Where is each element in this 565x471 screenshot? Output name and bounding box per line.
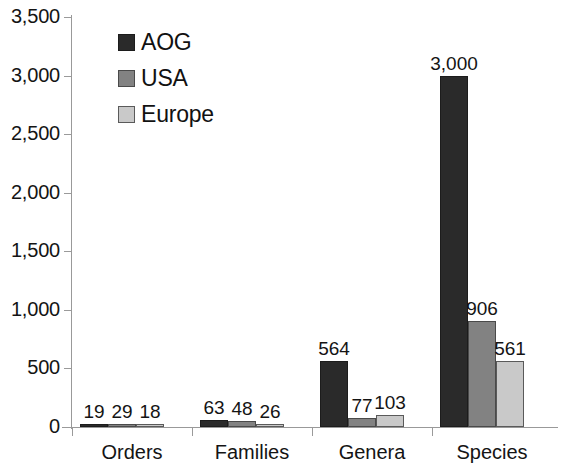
bar-value-label: 906 <box>456 299 508 319</box>
y-axis-label: 500 <box>2 357 60 377</box>
legend-item-europe: Europe <box>118 96 214 132</box>
legend-swatch-icon <box>118 70 135 87</box>
legend-item-label: Europe <box>141 102 214 126</box>
bar-species-aog <box>440 76 468 427</box>
bar-genera-aog <box>320 361 348 427</box>
y-axis-label: 0 <box>2 416 60 436</box>
legend-item-label: AOG <box>141 30 192 54</box>
bar-orders-europe <box>136 424 164 427</box>
x-axis-tick <box>192 427 193 436</box>
legend-item-label: USA <box>141 66 188 90</box>
legend-item-aog: AOG <box>118 24 214 60</box>
x-axis-category-label: Families <box>192 441 312 463</box>
legend-item-usa: USA <box>118 60 214 96</box>
bar-species-usa <box>468 321 496 427</box>
y-axis-tick <box>64 310 72 311</box>
bar-genera-usa <box>348 418 376 427</box>
x-axis-tick <box>72 427 73 436</box>
bar-value-label: 564 <box>308 339 360 359</box>
bar-families-usa <box>228 421 256 427</box>
x-axis-tick <box>312 427 313 436</box>
y-axis-label: 1,500 <box>2 240 60 260</box>
bar-value-label: 103 <box>364 393 416 413</box>
bar-chart: 05001,0001,5002,0002,5003,0003,500 19291… <box>0 0 565 471</box>
bar-genera-europe <box>376 415 404 427</box>
y-axis-label: 3,000 <box>2 65 60 85</box>
y-axis-tick <box>64 17 72 18</box>
bar-value-label: 3,000 <box>428 54 480 74</box>
y-axis-tick <box>64 251 72 252</box>
bar-families-aog <box>200 420 228 427</box>
bar-orders-aog <box>80 424 108 427</box>
bar-species-europe <box>496 361 524 427</box>
legend-swatch-icon <box>118 34 135 51</box>
y-axis-tick <box>64 76 72 77</box>
x-axis-category-label: Genera <box>312 441 432 463</box>
x-axis-category-label: Species <box>432 441 552 463</box>
chart-legend: AOGUSAEurope <box>118 24 214 132</box>
bar-orders-usa <box>108 424 136 427</box>
y-axis-label: 2,500 <box>2 123 60 143</box>
y-axis-label: 3,500 <box>2 6 60 26</box>
x-axis-tick <box>432 427 433 436</box>
y-axis-label: 2,000 <box>2 182 60 202</box>
y-axis-label: 1,000 <box>2 299 60 319</box>
x-axis-category-label: Orders <box>72 441 192 463</box>
bar-value-label: 18 <box>124 402 176 422</box>
bar-value-label: 561 <box>484 339 536 359</box>
y-axis-tick <box>64 193 72 194</box>
y-axis-tick <box>64 427 72 428</box>
bar-value-label: 26 <box>244 402 296 422</box>
bar-families-europe <box>256 424 284 427</box>
legend-swatch-icon <box>118 106 135 123</box>
y-axis-tick <box>64 368 72 369</box>
y-axis-tick <box>64 134 72 135</box>
x-axis-line <box>62 427 558 428</box>
